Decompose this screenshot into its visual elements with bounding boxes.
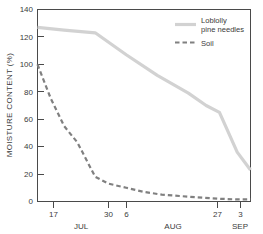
y-axis-ticks <box>38 10 44 202</box>
x-axis-month-labels: JUL AUG SEP <box>74 222 248 231</box>
legend-label-loblolly-line2: pine needles <box>201 25 244 34</box>
moisture-content-chart-figure: 0 20 40 60 80 100 120 140 MOISTURE CONTE… <box>0 0 263 234</box>
chart-legend: Loblolly pine needles Soil <box>175 16 244 48</box>
x-tick-label-sep-3: 3 <box>238 210 243 219</box>
legend-label-soil: Soil <box>201 39 214 48</box>
x-axis-tick-labels: 17 30 6 27 3 <box>49 210 243 219</box>
x-tick-label-jul-17: 17 <box>49 210 58 219</box>
y-tick-label-0: 0 <box>29 197 34 206</box>
y-tick-label-80: 80 <box>24 88 33 97</box>
month-label-sep: SEP <box>232 222 248 231</box>
y-tick-label-120: 120 <box>20 33 34 42</box>
plot-frame <box>38 10 251 202</box>
month-label-aug: AUG <box>164 222 181 231</box>
y-tick-label-100: 100 <box>20 60 34 69</box>
x-tick-label-aug-27: 27 <box>213 210 222 219</box>
x-axis-ticks <box>54 202 241 208</box>
y-tick-label-20: 20 <box>24 170 33 179</box>
y-tick-label-140: 140 <box>20 5 34 14</box>
chart-canvas: 0 20 40 60 80 100 120 140 MOISTURE CONTE… <box>0 0 263 234</box>
x-tick-label-aug-6: 6 <box>124 210 129 219</box>
y-axis-tick-labels: 0 20 40 60 80 100 120 140 <box>20 5 34 206</box>
x-tick-label-jul-30: 30 <box>104 210 113 219</box>
y-tick-label-60: 60 <box>24 115 33 124</box>
series-line-loblolly-pine-needles <box>38 27 251 170</box>
month-label-jul: JUL <box>74 222 89 231</box>
y-axis-title: MOISTURE CONTENT (%) <box>5 53 14 158</box>
legend-label-loblolly-line1: Loblolly <box>201 16 227 25</box>
series-line-soil <box>38 64 251 199</box>
data-series-group <box>38 27 251 199</box>
y-tick-label-40: 40 <box>24 142 33 151</box>
